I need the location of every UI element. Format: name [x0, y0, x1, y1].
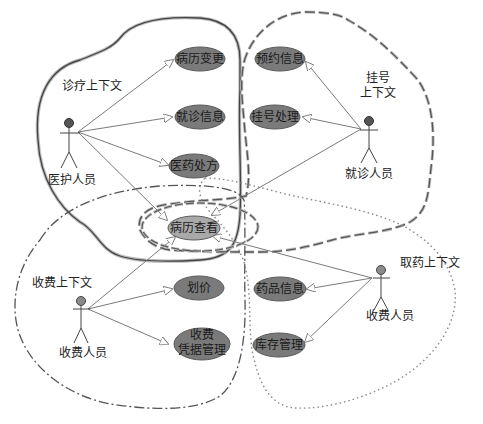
registration-context-label-line1: 挂号: [366, 71, 390, 85]
usecase-record-change-label: 病历变更: [176, 51, 224, 66]
actor-cashier-pharmacy-label: 收费人员: [366, 309, 414, 323]
actor-head-icon: [65, 119, 74, 128]
usecase-pricing-label: 划价: [187, 281, 211, 295]
use-case-diagram: 诊疗上下文 挂号 上下文 收费上下文 取药上下文 病历变更 就诊信息 医药处方: [0, 0, 483, 424]
usecase-registration-processing-label: 挂号处理: [251, 110, 299, 124]
pharmacy-context-label: 取药上下文: [400, 255, 460, 270]
usecase-receipt-management-label-line1: 收费: [190, 328, 214, 342]
actor-head-icon: [377, 266, 386, 275]
actor-cashier-billing-label: 收费人员: [59, 346, 107, 360]
usecase-drug-info-label: 药品信息: [256, 281, 304, 296]
actor-cashier-billing[interactable]: [73, 297, 90, 344]
usecase-receipt-management-label-line2: 凭据管理: [178, 342, 226, 357]
assoc-medstaff-visit-info: [78, 117, 172, 132]
registration-context-label-line2: 上下文: [360, 85, 396, 100]
assoc-medstaff-prescription: [78, 132, 168, 165]
usecase-inventory-management[interactable]: 库存管理: [253, 333, 305, 357]
usecase-visit-info[interactable]: 就诊信息: [175, 105, 225, 129]
usecase-record-change[interactable]: 病历变更: [175, 47, 225, 71]
assoc-billing-receipt: [88, 309, 168, 344]
usecase-pricing[interactable]: 划价: [174, 276, 224, 300]
actor-patient[interactable]: [360, 117, 378, 164]
pharmacy-context-boundary: [200, 178, 456, 408]
usecase-record-view[interactable]: 病历查看: [168, 216, 220, 240]
assoc-pharmacy-record-view: [213, 236, 372, 278]
actor-patient-label: 就诊人员: [345, 167, 393, 181]
clinical-context-label: 诊疗上下文: [62, 78, 122, 93]
assoc-medstaff-record-change: [78, 60, 173, 132]
usecase-record-view-label: 病历查看: [170, 220, 218, 235]
usecase-drug-info[interactable]: 药品信息: [254, 277, 306, 301]
usecase-prescription-label: 医药处方: [170, 158, 218, 173]
assoc-patient-record-view: [212, 129, 361, 215]
usecase-prescription[interactable]: 医药处方: [169, 154, 219, 178]
actor-head-icon: [77, 297, 86, 306]
actor-medical-staff-label: 医护人员: [48, 173, 96, 187]
usecase-appointment-info[interactable]: 预约信息: [255, 47, 305, 71]
usecase-receipt-management[interactable]: 收费 凭据管理: [174, 328, 230, 360]
usecase-inventory-management-label: 库存管理: [255, 337, 303, 352]
actor-medical-staff[interactable]: [60, 119, 80, 169]
usecase-registration-processing[interactable]: 挂号处理: [250, 105, 300, 129]
actor-cashier-pharmacy[interactable]: [373, 266, 390, 311]
usecase-visit-info-label: 就诊信息: [176, 109, 224, 124]
billing-context-label: 收费上下文: [32, 275, 92, 290]
actor-head-icon: [365, 117, 374, 126]
usecase-appointment-info-label: 预约信息: [256, 51, 304, 66]
associations: [78, 60, 372, 344]
